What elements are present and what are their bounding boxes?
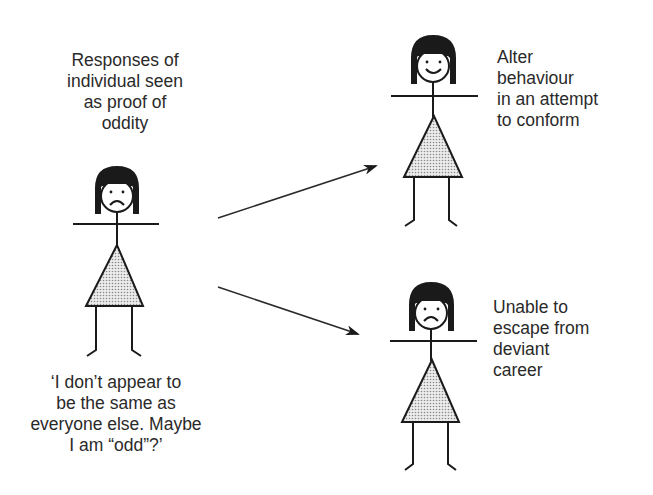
bottom-quote: ‘I don’t appear to be the same as everyo… xyxy=(0,372,232,456)
face xyxy=(101,180,133,212)
deviant-figure xyxy=(390,282,477,470)
outcome-conform-label: Alter behaviour in an attempt to conform xyxy=(497,47,647,131)
outcome-deviant-label: Unable to escape from deviant career xyxy=(493,297,648,381)
arrow-to-deviant xyxy=(218,287,358,334)
conform-figure xyxy=(391,35,478,226)
skirt xyxy=(86,245,143,306)
arrow-to-conform xyxy=(218,166,376,218)
central-figure xyxy=(73,166,159,356)
top-caption: Responses of individual seen as proof of… xyxy=(40,50,210,134)
